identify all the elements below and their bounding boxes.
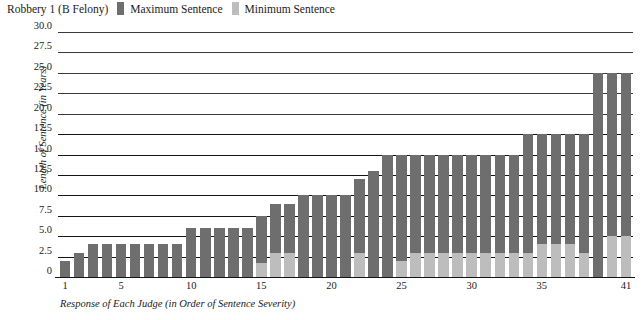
bar-group[interactable] — [607, 32, 618, 277]
bar-group[interactable] — [466, 32, 477, 277]
bar-maximum-sentence[interactable] — [368, 171, 379, 277]
x-tick-label: 41 — [621, 281, 632, 292]
bar-group[interactable] — [551, 32, 562, 277]
bar-maximum-sentence[interactable] — [326, 195, 337, 277]
bar-minimum-sentence[interactable] — [523, 253, 534, 278]
bar-minimum-sentence[interactable] — [621, 236, 632, 277]
bar-group[interactable] — [523, 32, 534, 277]
bar-group[interactable] — [102, 32, 113, 277]
y-tick-label: 10.0 — [18, 184, 52, 195]
x-tick-label: 15 — [256, 281, 267, 292]
bar-minimum-sentence[interactable] — [537, 244, 548, 277]
bar-minimum-sentence[interactable] — [270, 253, 281, 278]
legend-swatch-min-icon — [232, 2, 239, 15]
bar-group[interactable] — [144, 32, 155, 277]
x-tick-label: 1 — [62, 281, 67, 292]
bar-group[interactable] — [312, 32, 323, 277]
bar-minimum-sentence[interactable] — [480, 253, 491, 278]
bar-maximum-sentence[interactable] — [214, 228, 225, 277]
bar-group[interactable] — [438, 32, 449, 277]
bar-maximum-sentence[interactable] — [144, 244, 155, 277]
bar-group[interactable] — [396, 32, 407, 277]
bar-maximum-sentence[interactable] — [242, 228, 253, 277]
legend-entry-maximum: Maximum Sentence — [117, 2, 222, 15]
bar-group[interactable] — [579, 32, 590, 277]
bar-maximum-sentence[interactable] — [74, 253, 85, 278]
bar-group[interactable] — [537, 32, 548, 277]
bar-maximum-sentence[interactable] — [228, 228, 239, 277]
x-tick-label: 5 — [118, 281, 123, 292]
bar-group[interactable] — [186, 32, 197, 277]
bar-group[interactable] — [480, 32, 491, 277]
bar-group[interactable] — [368, 32, 379, 277]
bar-maximum-sentence[interactable] — [200, 228, 211, 277]
bar-group[interactable] — [340, 32, 351, 277]
bar-group[interactable] — [326, 32, 337, 277]
bar-minimum-sentence[interactable] — [424, 253, 435, 278]
bar-group[interactable] — [88, 32, 99, 277]
bar-group[interactable] — [382, 32, 393, 277]
bar-minimum-sentence[interactable] — [579, 253, 590, 278]
bar-minimum-sentence[interactable] — [466, 253, 477, 278]
bar-group[interactable] — [509, 32, 520, 277]
bar-group[interactable] — [354, 32, 365, 277]
x-tick-label: 35 — [537, 281, 548, 292]
bar-maximum-sentence[interactable] — [172, 244, 183, 277]
bar-minimum-sentence[interactable] — [452, 253, 463, 278]
bar-minimum-sentence[interactable] — [509, 253, 520, 278]
bar-minimum-sentence[interactable] — [438, 253, 449, 278]
bar-group[interactable] — [228, 32, 239, 277]
bar-group[interactable] — [298, 32, 309, 277]
bar-group[interactable] — [116, 32, 127, 277]
bar-group[interactable] — [130, 32, 141, 277]
bar-minimum-sentence[interactable] — [495, 253, 506, 278]
x-axis-title: Response of Each Judge (in Order of Sent… — [60, 298, 295, 309]
y-tick-label: 17.5 — [18, 123, 52, 134]
bar-group[interactable] — [214, 32, 225, 277]
legend-label-maximum: Maximum Sentence — [130, 3, 222, 15]
bar-maximum-sentence[interactable] — [60, 261, 71, 277]
bar-group[interactable] — [410, 32, 421, 277]
bar-maximum-sentence[interactable] — [340, 195, 351, 277]
bar-group[interactable] — [593, 32, 604, 277]
bar-group[interactable] — [200, 32, 211, 277]
bar-maximum-sentence[interactable] — [130, 244, 141, 277]
bar-group[interactable] — [565, 32, 576, 277]
bar-group[interactable] — [242, 32, 253, 277]
bar-group[interactable] — [270, 32, 281, 277]
bar-group[interactable] — [424, 32, 435, 277]
bar-minimum-sentence[interactable] — [607, 236, 618, 277]
bar-group[interactable] — [74, 32, 85, 277]
bar-group[interactable] — [60, 32, 71, 277]
bar-minimum-sentence[interactable] — [410, 253, 421, 278]
bar-maximum-sentence[interactable] — [88, 244, 99, 277]
bar-minimum-sentence[interactable] — [284, 253, 295, 278]
y-tick-label: 25.0 — [18, 62, 52, 73]
bar-maximum-sentence[interactable] — [298, 195, 309, 277]
bar-maximum-sentence[interactable] — [158, 244, 169, 277]
bar-group[interactable] — [621, 32, 632, 277]
bar-group[interactable] — [452, 32, 463, 277]
x-axis-ticks: 1510152025303541 — [58, 281, 633, 295]
x-tick-label: 10 — [186, 281, 197, 292]
bar-minimum-sentence[interactable] — [551, 244, 562, 277]
bar-maximum-sentence[interactable] — [382, 155, 393, 278]
legend-entry-minimum: Minimum Sentence — [232, 2, 335, 15]
bar-minimum-sentence[interactable] — [256, 263, 267, 277]
y-tick-label: 0 — [18, 266, 52, 277]
y-axis-ticks: 02.55.07.510.012.515.017.520.022.525.027… — [18, 32, 52, 277]
bar-group[interactable] — [284, 32, 295, 277]
bar-maximum-sentence[interactable] — [102, 244, 113, 277]
bar-minimum-sentence[interactable] — [565, 244, 576, 277]
bar-group[interactable] — [256, 32, 267, 277]
bar-minimum-sentence[interactable] — [396, 261, 407, 277]
bar-maximum-sentence[interactable] — [186, 228, 197, 277]
bar-maximum-sentence[interactable] — [312, 195, 323, 277]
bar-group[interactable] — [495, 32, 506, 277]
bar-maximum-sentence[interactable] — [593, 73, 604, 277]
bar-group[interactable] — [172, 32, 183, 277]
bar-maximum-sentence[interactable] — [116, 244, 127, 277]
bar-maximum-sentence[interactable] — [396, 155, 407, 278]
bar-minimum-sentence[interactable] — [354, 253, 365, 278]
bar-group[interactable] — [158, 32, 169, 277]
